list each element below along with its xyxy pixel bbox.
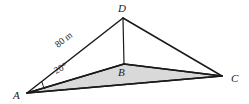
vertex-label-b: B <box>118 66 125 78</box>
edge-d-b <box>123 18 124 64</box>
side-length-label-ad: 80 m <box>53 29 75 49</box>
vertex-label-a: A <box>12 89 20 101</box>
vertex-label-c: C <box>231 72 239 84</box>
geometry-diagram: A B C D 80 m 20° <box>0 0 249 104</box>
figure-canvas: A B C D 80 m 20° <box>0 0 249 104</box>
vertex-label-d: D <box>117 2 126 14</box>
